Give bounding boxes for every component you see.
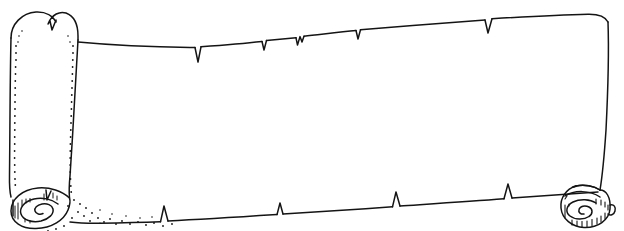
scroll-illustration-canvas: and write it on the tablet <box>0 0 624 231</box>
scroll-line-art <box>0 0 624 231</box>
